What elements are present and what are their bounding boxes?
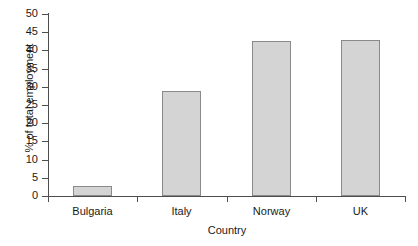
bar-norway [252,41,291,196]
x-axis-label-norway: Norway [227,205,316,218]
x-axis-tick [405,197,406,202]
x-axis-label-uk: UK [316,205,405,218]
y-axis-tick-label: 5 [0,172,38,183]
x-axis-tick [48,197,49,202]
x-axis-tick [316,197,317,202]
x-axis-label-italy: Italy [137,205,226,218]
bar-bulgaria [73,186,112,196]
y-axis-tick [42,160,48,161]
y-axis-tick-label: 25 [0,99,38,110]
y-axis-tick-label: 20 [0,117,38,128]
y-axis-tick [42,105,48,106]
y-axis-tick [42,141,48,142]
y-axis-tick [42,69,48,70]
y-axis-line [48,13,49,197]
y-axis-tick [42,14,48,15]
y-axis-tick-label: 0 [0,190,38,201]
bar-uk [341,40,380,196]
x-axis-title: Country [48,224,406,237]
y-axis-tick-label: 10 [0,154,38,165]
x-axis-label-bulgaria: Bulgaria [48,205,137,218]
y-axis-tick-label: 50 [0,8,38,19]
y-axis-tick-label: 35 [0,63,38,74]
bar-chart: % of total employment 051015202530354045… [0,0,418,246]
bar-italy [162,91,201,196]
y-axis-tick-label: 15 [0,135,38,146]
y-axis-tick [42,87,48,88]
y-axis-tick [42,178,48,179]
y-axis-tick [42,32,48,33]
x-axis-tick [227,197,228,202]
y-axis-tick-label: 30 [0,81,38,92]
x-axis-tick [137,197,138,202]
y-axis-tick-label: 45 [0,26,38,37]
y-axis-tick-label: 40 [0,44,38,55]
y-axis-tick [42,50,48,51]
y-axis-tick [42,123,48,124]
